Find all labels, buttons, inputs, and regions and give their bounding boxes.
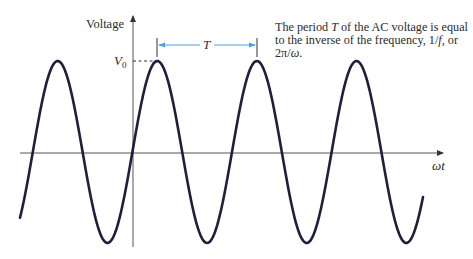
y-axis-label: Voltage (86, 17, 124, 31)
caption-text: The period T of the AC voltage is equal … (275, 21, 471, 60)
period-label: T (203, 37, 211, 52)
x-axis-label: ωt (432, 158, 445, 173)
amplitude-label: V0 (114, 53, 127, 70)
sine-wave-curve (20, 61, 423, 243)
